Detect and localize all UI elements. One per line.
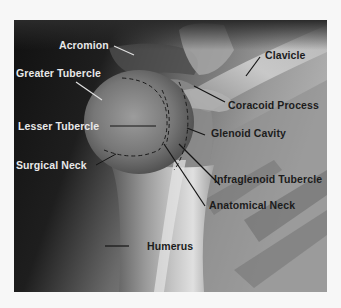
label-lesser-tubercle: Lesser Tubercle [18, 121, 99, 132]
label-acromion: Acromion [59, 40, 109, 51]
label-greater-tubercle: Greater Tubercle [16, 68, 101, 79]
label-humerus: Humerus [147, 241, 193, 252]
label-surgical-neck: Surgical Neck [16, 160, 87, 171]
label-glenoid-cavity: Glenoid Cavity [211, 128, 286, 139]
label-anatomical-neck: Anatomical Neck [209, 200, 295, 211]
label-clavicle: Clavicle [265, 50, 306, 61]
label-coracoid-process: Coracoid Process [228, 100, 319, 111]
label-infraglenoid-tubercle: Infraglenoid Tubercle [214, 174, 322, 185]
